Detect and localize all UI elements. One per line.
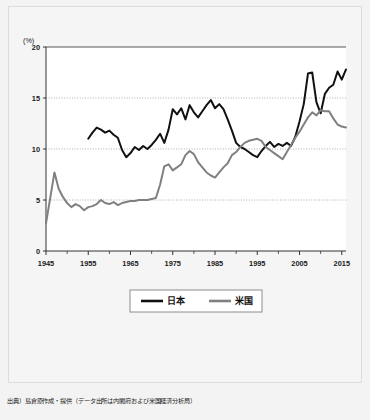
legend-label: 米国 — [234, 295, 253, 306]
y-tick-label: 0 — [36, 247, 40, 256]
figure-frame: 05101520 1945195519651975198519952005201… — [8, 6, 362, 383]
x-tick-label: 2015 — [334, 259, 350, 268]
line-chart: 05101520 1945195519651975198519952005201… — [9, 7, 363, 384]
x-tick-label: 1985 — [207, 259, 223, 268]
x-tick-label: 1955 — [80, 259, 96, 268]
y-tick-label: 15 — [32, 94, 40, 103]
x-tick-label: 2005 — [291, 259, 307, 268]
y-axis-tick-labels: 05101520 — [32, 43, 40, 256]
source-caption: 出典）島倉原作成・提供（データ出所は内閣府および米国経済分析局） — [7, 396, 196, 405]
gridlines — [46, 47, 346, 251]
y-tick-label: 5 — [36, 196, 40, 205]
chart-canvas: 05101520 1945195519651975198519952005201… — [9, 7, 363, 384]
figure-root: 05101520 1945195519651975198519952005201… — [0, 0, 370, 420]
legend-label: 日本 — [167, 295, 186, 306]
x-tick-label: 1995 — [249, 259, 265, 268]
x-axis-tick-labels: 19451955196519751985199520052015 — [38, 259, 350, 268]
y-tick-label: 10 — [32, 145, 40, 154]
chart-legend: 日本米国 — [130, 290, 262, 312]
x-tick-label: 1975 — [165, 259, 181, 268]
x-tick-label: 1945 — [38, 259, 54, 268]
x-tick-label: 1965 — [122, 259, 138, 268]
y-axis-unit-label: (%) — [23, 36, 34, 45]
